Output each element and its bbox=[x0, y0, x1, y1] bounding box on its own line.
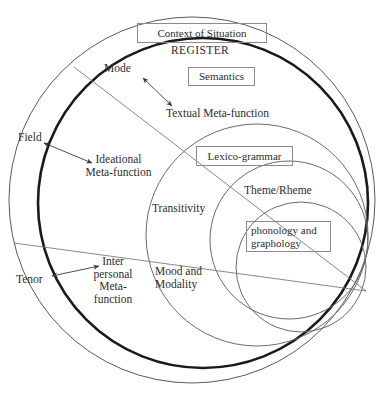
theme-rheme-label: Theme/Rheme bbox=[244, 184, 312, 197]
semantics-box: Semantics bbox=[188, 67, 255, 86]
transitivity-label: Transitivity bbox=[152, 202, 205, 215]
tenor-label: Tenor bbox=[16, 273, 43, 286]
textual-meta-function-label: Textual Meta-function bbox=[166, 107, 269, 120]
register-label: REGISTER bbox=[171, 44, 229, 57]
field-label: Field bbox=[18, 131, 42, 144]
mode-arrow bbox=[143, 78, 172, 106]
mode-label: Mode bbox=[104, 62, 131, 75]
phonology-and-graphology-box: phonology and graphology bbox=[246, 221, 331, 252]
sfl-nested-circles-diagram: Context of Situation Semantics Lexico-gr… bbox=[0, 0, 382, 394]
context-of-situation-box: Context of Situation bbox=[137, 23, 267, 43]
diagram-canvas bbox=[0, 0, 382, 394]
interpersonal-meta-function-label: Inter personal Meta- function bbox=[82, 255, 144, 305]
mood-and-modality-label: Mood and Modality bbox=[155, 265, 202, 290]
ideational-meta-function-label: Ideational Meta-function bbox=[66, 153, 171, 178]
lexico-grammar-box: Lexico-grammar bbox=[196, 146, 293, 166]
